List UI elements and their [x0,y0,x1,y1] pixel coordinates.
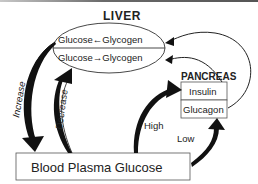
decrease-arrowhead-icon [54,68,72,84]
blood-plasma-glucose-label: Blood Plasma Glucose [31,160,163,175]
glucagon-arrowhead-icon [165,37,174,46]
insulin-arrowhead-icon [165,55,173,64]
low-arrow [191,128,219,167]
glucagon-label: Glucagon [183,104,224,115]
high-label: High [144,120,164,131]
glucose-regulation-diagram: LIVER Glucose←Glycogen Glucose→Glycogen … [0,0,258,184]
high-arrowhead-icon [166,80,182,98]
liver-title: LIVER [103,9,141,23]
low-arrowhead-icon [208,118,225,130]
liver-reaction-top: Glucose←Glycogen [58,34,142,45]
increase-arrow [24,42,56,140]
increase-arrowhead-icon [22,136,44,152]
liver-reaction-bottom: Glucose→Glycogen [58,52,142,63]
low-label: Low [177,133,195,144]
pancreas-title: PANCREAS [181,71,237,82]
insulin-label: Insulin [189,86,216,97]
